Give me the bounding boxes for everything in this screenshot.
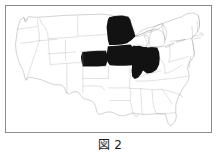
- border-nc-sc: [162, 89, 183, 97]
- state-nebraska: [81, 51, 107, 67]
- united-states-map-svg: [6, 6, 211, 132]
- figure-caption: 図 2: [0, 137, 220, 153]
- map-frame: [5, 5, 212, 133]
- state-iowa: [107, 44, 136, 65]
- long-island: [194, 38, 201, 39]
- cape-cod: [199, 33, 203, 36]
- illinois-indiana-connector: [143, 47, 147, 71]
- figure-container: 図 2: [0, 0, 220, 160]
- border-ga-fl: [157, 112, 176, 113]
- chesapeake-bay: [189, 56, 191, 68]
- border-ma-ct: [192, 35, 200, 36]
